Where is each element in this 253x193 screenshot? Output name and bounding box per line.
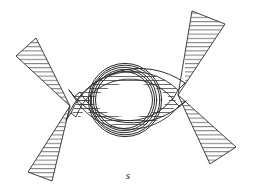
wedge-lower-right-hatching — [172, 90, 244, 175]
wedge-lower-right-group — [172, 90, 244, 175]
wedge-lower-left-hatching — [22, 100, 82, 190]
wedge-upper-left-group — [10, 30, 80, 115]
lune-bottom-group — [50, 70, 210, 180]
wedge-lower-left-group — [22, 100, 82, 190]
lune-bottom-hatching — [50, 70, 210, 180]
outer-arc-bottom-cap-left — [69, 90, 74, 97]
wedge-upper-right-hatching — [185, 5, 240, 105]
wedge-upper-right-group — [178, 5, 240, 105]
wedge-upper-left-hatching — [10, 30, 80, 115]
figure-root: s — [0, 0, 253, 193]
label-s: s — [126, 169, 130, 181]
caustic-diagram-svg: s — [0, 0, 253, 193]
